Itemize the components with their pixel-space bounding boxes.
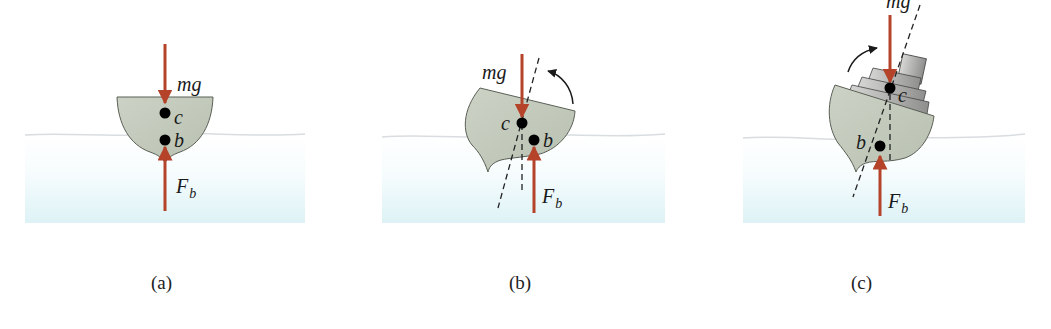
caption-b: (b) xyxy=(509,272,531,294)
center-of-buoyancy-point xyxy=(529,135,540,146)
center-of-gravity-point xyxy=(160,108,171,119)
gravity-point-label: c xyxy=(174,106,183,128)
center-of-buoyancy-point xyxy=(875,141,886,152)
weight-label: mg xyxy=(177,73,201,96)
center-of-gravity-point xyxy=(885,83,896,94)
gravity-point-label: c xyxy=(501,112,510,134)
buoyancy-stability-diagram: mg c b Fb (a) mg c b Fb (b) xyxy=(0,0,1051,329)
restoring-torque-arrow xyxy=(548,71,573,104)
gravity-point-label: c xyxy=(898,84,907,106)
center-of-gravity-point xyxy=(517,118,528,129)
buoyancy-point-label: b xyxy=(543,129,553,151)
panel-a: mg c b Fb (a) xyxy=(25,44,305,294)
weight-label: mg xyxy=(886,0,910,13)
center-of-buoyancy-point xyxy=(160,135,171,146)
buoyancy-point-label: b xyxy=(856,131,866,153)
panel-c: mg c b Fb (c) xyxy=(743,0,1025,294)
buoyancy-point-label: b xyxy=(174,129,184,151)
panel-b: mg c b Fb (b) xyxy=(382,54,665,294)
caption-c: (c) xyxy=(851,272,872,294)
caption-a: (a) xyxy=(151,272,172,294)
weight-label: mg xyxy=(482,61,506,84)
